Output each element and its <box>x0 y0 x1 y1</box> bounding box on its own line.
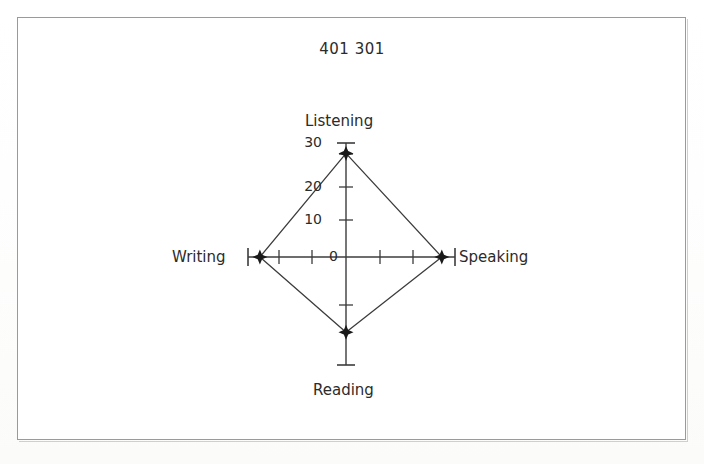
axis-label-reading: Reading <box>313 381 374 399</box>
axis-label-listening: Listening <box>305 112 373 130</box>
radial-tick-label-30: 30 <box>296 134 322 150</box>
axis-label-speaking: Speaking <box>459 248 528 266</box>
radial-tick-label-10: 10 <box>296 211 322 227</box>
axis-label-writing: Writing <box>172 248 226 266</box>
figure-page: 401 301 <box>0 0 704 464</box>
radial-tick-label-0: 0 <box>320 248 338 264</box>
radial-tick-label-20: 20 <box>296 178 322 194</box>
